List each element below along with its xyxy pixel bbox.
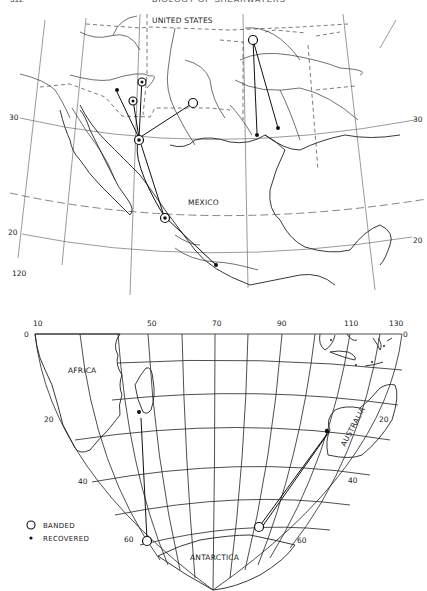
banded-marker-indian-west xyxy=(143,537,152,546)
lat-0-right: 0 xyxy=(403,330,408,339)
bottom-map: 10 50 70 90 110 130 xyxy=(0,0,427,591)
bottom-longitude-labels: 10 50 70 90 110 130 xyxy=(33,319,404,328)
lon-130: 130 xyxy=(389,319,404,328)
lat-0-left: 0 xyxy=(24,330,29,339)
recovered-marker-madagascar xyxy=(137,410,141,414)
lat-40-left: 40 xyxy=(78,477,88,486)
lon-90: 90 xyxy=(277,319,287,328)
lon-70: 70 xyxy=(212,319,222,328)
recovered-legend-icon xyxy=(29,536,32,539)
label-africa: AFRICA xyxy=(68,366,97,375)
legend-banded: BANDED xyxy=(43,522,75,530)
frame-left-arc xyxy=(35,334,213,590)
label-antarctica: ANTARCTICA xyxy=(190,553,240,562)
bottom-meridians xyxy=(80,334,380,590)
indonesia-islands xyxy=(320,334,392,366)
lat-60-left: 60 xyxy=(124,535,134,544)
lat-20-left: 20 xyxy=(44,415,54,424)
lat-20-right: 20 xyxy=(379,415,389,424)
recovered-marker-australia xyxy=(325,429,329,433)
lon-50: 50 xyxy=(147,319,157,328)
legend: BANDED RECOVERED xyxy=(27,521,89,543)
madagascar xyxy=(135,368,154,413)
lon-110: 110 xyxy=(344,319,359,328)
lon-10: 10 xyxy=(33,319,43,328)
lat-60-right: 60 xyxy=(297,536,307,545)
bottom-parallels xyxy=(75,360,402,545)
lat-40-right: 40 xyxy=(348,476,358,485)
banded-marker-indian-east xyxy=(255,523,264,532)
legend-recovered: RECOVERED xyxy=(43,535,89,543)
africa-landmass xyxy=(35,334,122,452)
bottom-routes xyxy=(141,418,329,540)
banded-legend-icon xyxy=(27,521,35,529)
